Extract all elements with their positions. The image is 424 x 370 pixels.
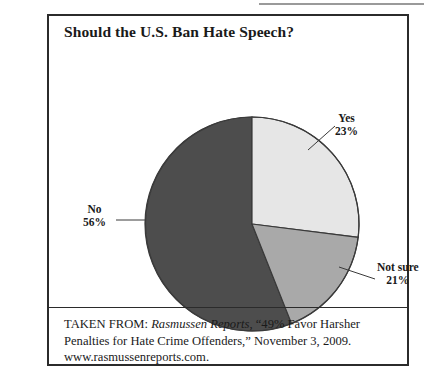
pie-label-no: No 56% <box>83 203 106 229</box>
pie-slice-no[interactable] <box>146 117 292 331</box>
pie-label-not-sure-value: 21% <box>377 274 419 287</box>
figure-divider <box>49 307 407 308</box>
pie-chart: Yes 23% Not sure 21% No 56% <box>47 40 409 308</box>
leader-line-yes <box>308 126 335 150</box>
pie-label-not-sure-text: Not sure <box>377 261 419 274</box>
page-title: Should the U.S. Ban Hate Speech? <box>64 23 294 41</box>
pie-label-not-sure: Not sure 21% <box>377 261 419 287</box>
citation-url: www.rasmussenreports.com. <box>64 349 394 366</box>
pie-label-yes-text: Yes <box>335 112 358 125</box>
pie-outline <box>145 117 359 331</box>
source-citation: TAKEN FROM: Rasmussen Reports, “49% Favo… <box>64 316 394 366</box>
citation-source: Rasmussen Reports <box>151 317 249 331</box>
page-top-rule <box>259 3 424 5</box>
pie-label-no-value: 56% <box>83 216 106 229</box>
citation-prefix: TAKEN FROM: <box>64 317 151 331</box>
leader-line-not-sure <box>339 267 375 279</box>
pie-label-yes: Yes 23% <box>335 112 358 138</box>
pie-label-yes-value: 23% <box>335 125 358 138</box>
pie-label-no-text: No <box>83 203 106 216</box>
